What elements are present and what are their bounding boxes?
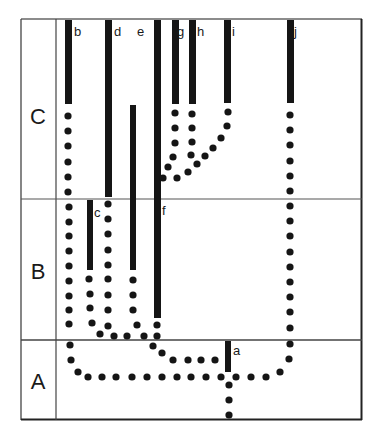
branch-bars [65,20,294,372]
bar-h [189,20,196,104]
lineage-dots [64,108,293,418]
lineage-diagram: C B A b d e g h i j c f a [0,0,380,442]
bar-f [154,20,161,318]
branch-label-a: a [233,343,241,358]
branch-label-e: e [137,24,144,39]
bar-b [65,20,72,104]
row-label-c: C [30,104,46,129]
branch-label-g: g [177,24,184,39]
branch-label-b: b [74,24,81,39]
row-label-b: B [31,259,46,284]
branch-label-j: j [293,24,297,39]
bar-c [87,200,93,270]
bar-d [105,20,112,197]
bar-e [130,105,136,270]
branch-label-h: h [197,24,204,39]
bar-j [287,20,294,103]
bar-i [224,20,231,103]
branch-label-c: c [94,205,101,220]
branch-label-d: d [114,24,121,39]
branch-label-f: f [162,203,166,218]
row-label-a: A [31,369,46,394]
bar-a [225,341,231,372]
branch-label-i: i [232,24,235,39]
